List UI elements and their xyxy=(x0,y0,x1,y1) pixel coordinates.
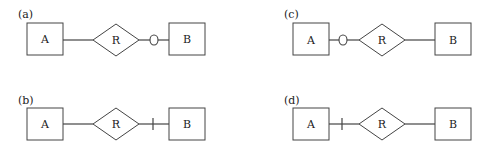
panel-b: (b) A R B xyxy=(18,94,205,140)
panel-a: (a) A R B xyxy=(18,8,205,56)
entity-b-label: B xyxy=(183,33,191,46)
entity-b-label: B xyxy=(449,118,457,131)
relationship-label: R xyxy=(378,34,387,47)
entity-a-label: A xyxy=(306,118,316,131)
panel-label: (c) xyxy=(284,8,299,21)
panel-d: (d) A R B xyxy=(284,94,471,140)
entity-b-label: B xyxy=(183,118,191,131)
panel-label: (a) xyxy=(18,8,33,21)
entity-a-label: A xyxy=(306,34,316,47)
panel-label: (d) xyxy=(284,94,300,107)
relationship-label: R xyxy=(378,118,387,131)
er-diagram-figure: (a) A R B (c) A R B (b) A R B (d xyxy=(0,0,490,145)
relationship-label: R xyxy=(112,118,121,131)
relationship-label: R xyxy=(112,34,121,47)
optional-circle-icon xyxy=(339,35,347,45)
entity-a-label: A xyxy=(40,33,50,46)
entity-a-label: A xyxy=(40,118,50,131)
entity-b-label: B xyxy=(449,34,457,47)
panel-c: (c) A R B xyxy=(284,8,471,56)
optional-circle-icon xyxy=(150,35,158,45)
panel-label: (b) xyxy=(18,94,34,107)
